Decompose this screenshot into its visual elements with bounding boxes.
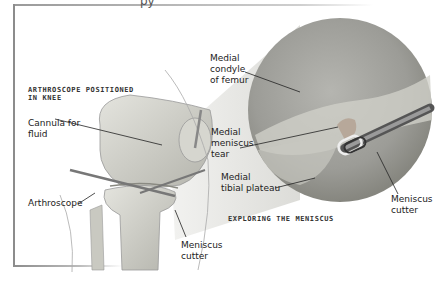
label-medial-tibial-plateau: Medial tibial plateau <box>221 172 280 194</box>
caption-exploring-the-meniscus: EXPLORING THE MENISCUS <box>228 215 334 223</box>
label-arthroscope: Arthroscope <box>28 198 83 209</box>
label-meniscus-cutter-right: Meniscus cutter <box>391 194 433 216</box>
label-medial-meniscus-tear: Medial meniscus tear <box>211 127 254 160</box>
label-medial-condyle-of-femur: Medial condyle of femur <box>210 53 248 86</box>
label-cannula-for-fluid: Cannula for fluid <box>28 118 80 140</box>
label-meniscus-cutter-left: Meniscus cutter <box>181 240 223 262</box>
caption-arthroscope-positioned: ARTHROSCOPE POSITIONED IN KNEE <box>28 86 134 102</box>
